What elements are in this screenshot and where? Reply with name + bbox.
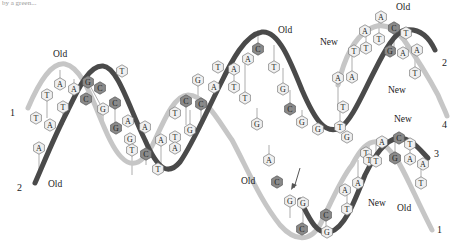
base-letter: T	[130, 146, 135, 155]
base-letter: T	[156, 165, 161, 174]
base-t-hexagon: T	[153, 163, 164, 175]
base-letter: T	[232, 83, 237, 92]
base-letter: G	[392, 154, 398, 163]
label-old-top-mid: Old	[278, 25, 293, 35]
strand-number-right-1: 1	[437, 224, 442, 235]
base-g-hexagon: G	[390, 152, 401, 164]
base-letter: G	[315, 125, 321, 134]
base-a-hexagon: A	[264, 154, 275, 166]
base-letter: A	[355, 179, 361, 188]
base-letter: C	[183, 97, 188, 106]
base-letter: T	[61, 103, 66, 112]
base-letter: A	[172, 144, 178, 153]
base-c-hexagon: C	[394, 132, 405, 144]
base-a-hexagon: A	[418, 158, 429, 170]
base-t-hexagon: T	[240, 92, 251, 104]
base-letter: G	[187, 126, 193, 135]
base-letter: C	[287, 105, 292, 114]
base-a-hexagon: A	[170, 142, 181, 154]
base-letter: T	[272, 63, 277, 72]
base-letter: T	[408, 140, 413, 149]
base-letter: C	[97, 84, 102, 93]
base-letter: A	[211, 83, 217, 92]
base-letter: C	[112, 99, 117, 108]
base-letter: G	[127, 135, 133, 144]
base-g-hexagon: G	[125, 133, 136, 145]
base-letter: C	[396, 134, 401, 143]
base-t-hexagon: T	[170, 131, 181, 143]
base-g-hexagon: G	[185, 124, 196, 136]
base-a-hexagon: A	[55, 78, 66, 90]
base-a-hexagon: A	[405, 153, 416, 165]
base-g-hexagon: G	[385, 45, 396, 57]
base-letter: A	[142, 123, 148, 132]
base-g-hexagon: G	[111, 122, 122, 134]
base-g-hexagon: G	[193, 74, 204, 86]
base-a-hexagon: A	[376, 11, 387, 23]
base-letter: T	[45, 91, 50, 100]
base-letter: G	[344, 133, 350, 142]
base-letter: G	[300, 199, 306, 208]
base-t-hexagon: T	[342, 203, 353, 215]
base-a-hexagon: A	[209, 81, 220, 93]
label-old-top-left: Old	[53, 49, 68, 59]
base-t-hexagon: T	[361, 42, 372, 54]
strand-number-right-3: 3	[434, 148, 439, 159]
base-t-hexagon: T	[170, 107, 181, 119]
base-c-hexagon: C	[253, 43, 264, 55]
strand-number-right-2: 2	[442, 57, 447, 68]
base-letter: T	[173, 109, 178, 118]
base-letter: C	[198, 100, 203, 109]
base-t-hexagon: T	[349, 45, 360, 57]
label-new-lower-mid: New	[368, 198, 386, 208]
base-letter: T	[243, 94, 248, 103]
base-letter: G	[324, 228, 330, 237]
base-a-hexagon: A	[398, 47, 409, 59]
base-t-hexagon: T	[42, 89, 53, 101]
base-t-hexagon: T	[338, 101, 349, 113]
label-old-bottom-left: Old	[48, 179, 63, 189]
base-c-hexagon: C	[321, 209, 332, 221]
base-letter: T	[216, 63, 221, 72]
strand-number-left-1: 1	[10, 107, 15, 118]
base-letter: T	[413, 69, 418, 78]
base-letter: A	[362, 27, 368, 36]
base-letter: A	[125, 117, 131, 126]
base-letter: C	[391, 24, 396, 33]
base-letter: A	[36, 144, 42, 153]
base-a-hexagon: A	[377, 136, 388, 148]
base-letter: T	[345, 205, 350, 214]
base-g-hexagon: G	[313, 123, 324, 135]
base-letter: C	[83, 95, 88, 104]
base-letter: C	[299, 225, 304, 234]
base-letter: A	[47, 121, 53, 130]
label-new-lower-top: New	[394, 114, 412, 124]
base-letter: C	[255, 45, 260, 54]
base-a-hexagon: A	[123, 115, 134, 127]
base-a-hexagon: A	[347, 71, 358, 83]
base-g-hexagon: G	[342, 131, 353, 143]
base-letter: T	[338, 123, 343, 132]
base-t-hexagon: T	[213, 61, 224, 73]
base-g-hexagon: G	[298, 197, 309, 209]
base-t-hexagon: T	[58, 101, 69, 113]
base-c-hexagon: C	[141, 148, 152, 160]
base-letter: T	[34, 114, 39, 123]
base-letter: A	[400, 49, 406, 58]
base-c-hexagon: C	[285, 103, 296, 115]
base-g-hexagon: G	[322, 226, 333, 238]
base-a-hexagon: A	[340, 184, 351, 196]
strand-number-left-2: 2	[17, 182, 22, 193]
base-t-hexagon: T	[371, 155, 382, 167]
dna-replication-diagram: by a green...	[0, 0, 463, 249]
base-letter: A	[57, 80, 63, 89]
base-letter: T	[120, 67, 125, 76]
label-old-lower-right: Old	[397, 203, 412, 213]
base-letter: G	[85, 78, 91, 87]
base-t-hexagon: T	[117, 65, 128, 77]
base-letter: A	[414, 46, 420, 55]
base-c-hexagon: C	[196, 98, 207, 110]
base-g-hexagon: G	[83, 76, 94, 88]
base-letter: G	[299, 118, 305, 127]
base-letter: G	[100, 105, 106, 114]
